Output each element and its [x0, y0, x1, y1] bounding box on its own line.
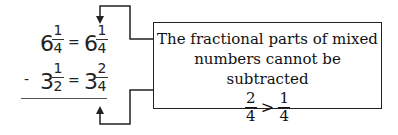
denominator: 4 — [98, 41, 107, 56]
denominator: 4 — [98, 79, 107, 94]
greater-than: > — [261, 98, 274, 118]
row1-right-frac: 14 — [96, 23, 108, 56]
numerator: 2 — [98, 61, 107, 76]
numerator: 1 — [54, 61, 63, 76]
row2-left-frac: 12 — [52, 61, 64, 94]
denominator: 2 — [54, 79, 63, 94]
numerator: 1 — [279, 90, 289, 107]
arrow-up-icon — [96, 106, 104, 114]
row2-minus: - — [24, 71, 29, 87]
sum-rule — [21, 98, 107, 99]
callout-inequality: 24>14 — [154, 90, 381, 125]
numerator: 2 — [246, 90, 256, 107]
denominator: 4 — [246, 108, 256, 125]
row1-equals: = — [68, 34, 80, 50]
numerator: 1 — [98, 23, 107, 38]
numerator: 1 — [54, 23, 63, 38]
callout-line-1: The fractional parts of mixed — [154, 29, 381, 49]
row1-left-frac: 14 — [52, 23, 64, 56]
row2-equals: = — [68, 72, 80, 88]
row2-right-frac: 24 — [96, 61, 108, 94]
callout-box: The fractional parts of mixed numbers ca… — [153, 22, 382, 109]
denominator: 4 — [54, 41, 63, 56]
callout-line-2: numbers cannot be subtracted — [154, 49, 381, 89]
diagram: 6 14 = 6 14 - 3 12 = 3 24 The fractional… — [0, 0, 398, 135]
denominator: 4 — [279, 108, 289, 125]
